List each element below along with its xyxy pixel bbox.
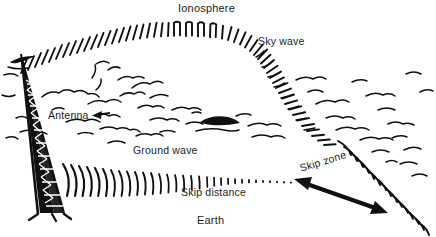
label-skip-distance: Skip distance <box>181 187 246 198</box>
skip-zone-arrow <box>294 177 388 214</box>
label-earth: Earth <box>197 215 224 226</box>
sky-wave-return-arcs <box>338 141 429 235</box>
label-antenna: Antenna <box>48 110 89 121</box>
label-sky-wave: Sky wave <box>258 36 305 47</box>
propagation-diagram: Ionosphere Sky wave Antenna Ground wave … <box>0 0 436 237</box>
label-ground-wave: Ground wave <box>133 145 198 156</box>
label-ionosphere: Ionosphere <box>178 3 235 14</box>
ground-wave-path <box>63 164 291 196</box>
antenna-tower <box>21 54 71 221</box>
